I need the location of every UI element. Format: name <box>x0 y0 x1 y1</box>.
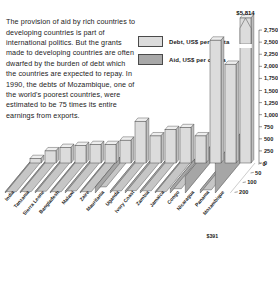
aid-axis-tick-label: 100 <box>247 179 256 185</box>
debt-bar <box>195 132 209 163</box>
debt-bar <box>105 141 119 163</box>
y-axis-tick-label: 250 <box>264 148 273 154</box>
y-axis-tick-label: 1,750 <box>264 75 278 81</box>
debt-bar <box>120 137 134 163</box>
debt-bar <box>45 147 59 163</box>
category-label: Jamaica <box>148 189 165 208</box>
debt-bar <box>165 126 179 163</box>
annotation-debt-max: $5,814 <box>236 10 255 16</box>
annotation-aid-mozambique: $391 <box>207 233 219 239</box>
chart-svg: $5,81402505007501,0001,2501,5001,7502,00… <box>0 0 278 289</box>
debt-bar <box>210 37 224 163</box>
y-axis-tick-label: 1,000 <box>264 112 278 118</box>
debt-bar <box>150 132 164 163</box>
debt-bar <box>75 142 89 163</box>
debt-bar <box>30 155 44 163</box>
aid-axis-tick-label: 50 <box>255 170 261 176</box>
aid-axis-tick-label: 0 <box>263 161 266 167</box>
y-axis-tick-label: 2,250 <box>264 51 278 57</box>
bar-chart-plot: $5,81402505007501,0001,2501,5001,7502,00… <box>0 0 278 289</box>
debt-bar <box>180 124 194 163</box>
y-axis-tick-label: 2,750 <box>264 27 278 33</box>
y-axis-tick-label: 500 <box>264 136 273 142</box>
y-axis-tick-label: 2,000 <box>264 63 278 69</box>
y-axis: 02505007501,0001,2501,5001,7502,0002,250… <box>259 27 278 166</box>
y-axis-tick-label: 1,250 <box>264 100 278 106</box>
debt-bar <box>225 61 239 163</box>
y-axis-tick-label: 1,500 <box>264 88 278 94</box>
aid-axis-tick-label: 200 <box>239 189 248 195</box>
debt-bars <box>30 15 254 163</box>
debt-bar <box>60 144 74 163</box>
category-labels: IndiaTanzaniaSierra LeoneBangladeshMalaw… <box>3 189 225 217</box>
debt-bar <box>90 141 104 163</box>
y-axis-tick-label: 2,500 <box>264 39 278 45</box>
y-axis-tick-label: 750 <box>264 124 273 130</box>
chart-figure: The provision of aid by rich countries t… <box>0 0 278 289</box>
aid-axis: 050100200 <box>235 161 266 195</box>
debt-bar <box>135 118 149 163</box>
